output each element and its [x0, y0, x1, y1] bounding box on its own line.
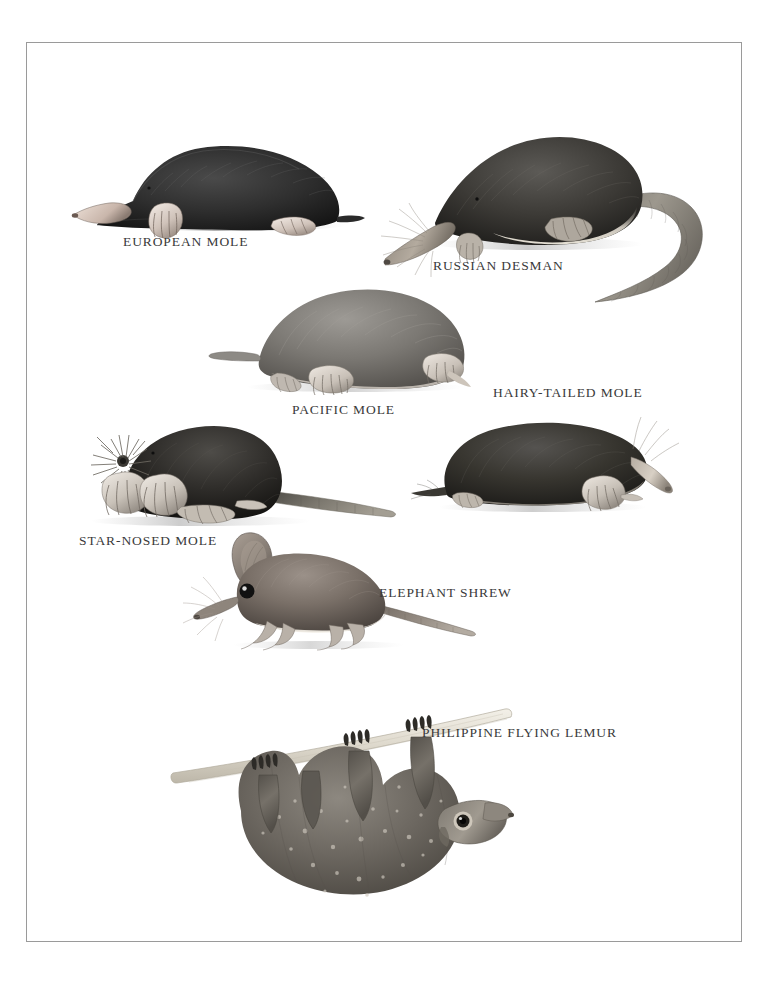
philippine-flying-lemur-drawing — [145, 651, 535, 901]
caption-hairy-tailed-mole: HAIRY-TAILED MOLE — [493, 385, 643, 401]
elephant-shrew-eye — [240, 584, 255, 599]
caption-pacific-mole: PACIFIC MOLE — [292, 402, 395, 418]
pacific-mole-drawing — [205, 269, 495, 395]
figure-hairy-tailed-mole — [425, 409, 690, 521]
caption-philippine-flying-lemur: PHILIPPINE FLYING LEMUR — [422, 725, 617, 741]
star-nosed-mole-tail — [265, 491, 396, 517]
figure-pacific-mole — [205, 269, 495, 395]
european-mole-drawing — [61, 109, 371, 234]
figure-european-mole — [61, 109, 371, 234]
european-mole-forepaw — [149, 203, 183, 238]
caption-elephant-shrew: ELEPHANT SHREW — [379, 585, 512, 601]
hairy-tailed-mole-tail — [411, 480, 447, 499]
star-nosed-mole-drawing — [61, 419, 406, 531]
european-mole-hindpaw — [271, 217, 316, 235]
illustration-plate: EUROPEAN MOLE — [26, 42, 742, 942]
hairy-tailed-mole-drawing — [425, 409, 690, 521]
flying-lemur-eye — [454, 812, 473, 831]
figure-star-nosed-mole — [61, 419, 406, 531]
caption-european-mole: EUROPEAN MOLE — [123, 234, 248, 250]
figure-philippine-flying-lemur — [145, 651, 535, 901]
